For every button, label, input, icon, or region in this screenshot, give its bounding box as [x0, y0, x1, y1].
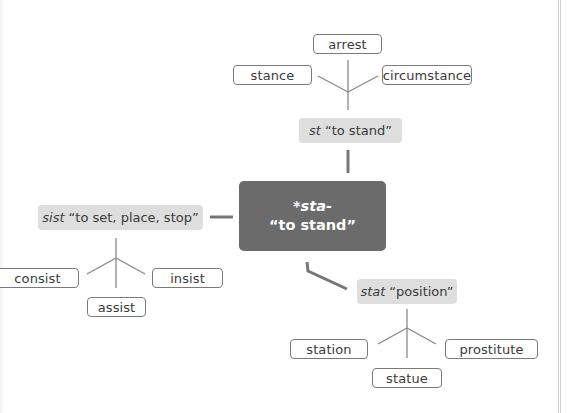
word-arrest: arrest: [313, 34, 382, 54]
stem-node-st: st “to stand”: [299, 118, 402, 143]
page-divider-line: [558, 0, 561, 413]
root-form: *sta-: [293, 197, 332, 216]
tree-st: [318, 60, 378, 110]
word-circumstance: circumstance: [382, 65, 472, 85]
stem-gloss: “to set, place, stop”: [69, 210, 199, 225]
connector-root-stat: [307, 262, 347, 289]
word-station: station: [290, 339, 368, 359]
stem-gloss: “to stand”: [325, 123, 392, 138]
word-prostitute: prostitute: [445, 339, 538, 359]
word-insist: insist: [152, 268, 223, 288]
root-gloss: “to stand”: [269, 216, 356, 235]
etymology-diagram: *sta- “to stand” st “to stand” sist “to …: [0, 0, 569, 413]
word-statue: statue: [372, 368, 442, 388]
left-edge-shadow: [0, 0, 4, 413]
tree-sist: [87, 238, 145, 288]
word-stance: stance: [233, 65, 312, 85]
word-consist: consist: [0, 268, 79, 288]
stem-node-sist: sist “to set, place, stop”: [38, 205, 203, 230]
word-assist: assist: [87, 297, 146, 317]
tree-stat: [378, 309, 436, 358]
stem-form: stat: [360, 284, 385, 299]
root-node: *sta- “to stand”: [239, 181, 386, 251]
stem-gloss: “position”: [389, 284, 453, 299]
stem-node-stat: stat “position”: [357, 279, 457, 304]
stem-form: sist: [42, 210, 64, 225]
stem-form: st: [309, 123, 321, 138]
